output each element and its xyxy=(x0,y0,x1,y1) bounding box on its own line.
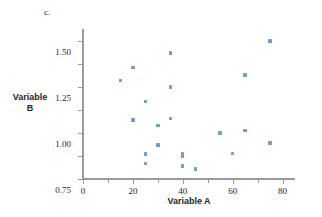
y-axis-tick-label: 1.00 xyxy=(55,139,71,149)
data-point xyxy=(169,117,172,120)
y-axis-tick: 0.50 xyxy=(78,133,83,134)
data-point xyxy=(181,154,184,157)
x-axis-tick-label: 0 xyxy=(81,186,86,196)
x-axis-minor-tick xyxy=(258,179,259,183)
y-axis-tick: 1.50 xyxy=(78,41,83,42)
data-point xyxy=(131,118,134,121)
y-axis-title-line1: Variable xyxy=(13,92,48,102)
data-point xyxy=(231,152,234,155)
data-point xyxy=(268,141,271,144)
data-point xyxy=(144,152,147,155)
data-point xyxy=(131,66,134,69)
data-point xyxy=(243,73,246,76)
y-axis-tick-label: 1.25 xyxy=(55,93,71,103)
data-point xyxy=(156,124,159,127)
x-axis-tick-label: 60 xyxy=(228,186,237,196)
x-axis-tick xyxy=(83,179,84,184)
x-axis-minor-tick xyxy=(158,179,159,183)
x-axis-tick xyxy=(233,179,234,184)
y-axis-tick: 0.25 xyxy=(78,156,83,157)
data-point xyxy=(169,51,172,54)
data-point xyxy=(218,131,221,134)
x-axis-minor-tick xyxy=(208,179,209,183)
x-axis-tick-label: 80 xyxy=(278,186,287,196)
data-point xyxy=(243,129,246,132)
x-axis-tick-label: 40 xyxy=(178,186,187,196)
y-axis-tick: 0.75 xyxy=(78,110,83,111)
y-axis-title: Variable B xyxy=(2,92,58,114)
x-axis-tick xyxy=(283,179,284,184)
y-axis-tick-label: 0.75 xyxy=(55,185,71,195)
data-point xyxy=(144,162,147,165)
panel-label: c. xyxy=(44,7,50,17)
y-axis-tick: 1.25 xyxy=(78,64,83,65)
data-point xyxy=(119,79,122,82)
data-point xyxy=(268,39,271,42)
x-axis-tick-label: 20 xyxy=(128,186,137,196)
data-point xyxy=(156,143,159,146)
y-axis-tick-label: 1.50 xyxy=(55,47,71,57)
plot-area: 0.000.250.500.751.001.251.50020406080 xyxy=(83,30,295,179)
data-point xyxy=(181,164,184,167)
x-axis-title: Variable A xyxy=(83,196,295,206)
data-point xyxy=(144,100,147,103)
scatter-plot-figure: c. Variable B 0.000.250.500.751.001.251.… xyxy=(0,0,322,217)
x-axis-tick xyxy=(133,179,134,184)
x-axis-tick xyxy=(183,179,184,184)
y-axis-tick: 1.00 xyxy=(78,87,83,88)
data-point xyxy=(169,85,172,88)
data-point xyxy=(194,167,197,170)
x-axis-minor-tick xyxy=(108,179,109,183)
y-axis-title-line2: B xyxy=(27,103,34,113)
